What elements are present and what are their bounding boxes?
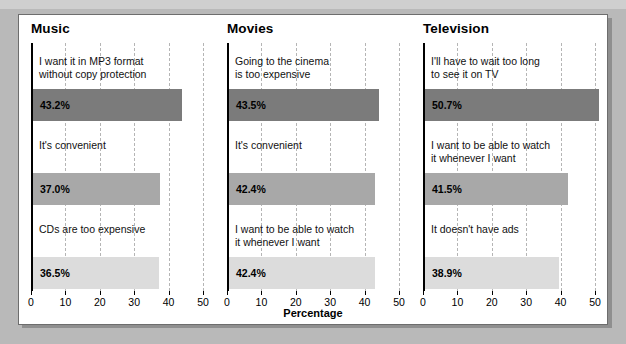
bar-value-label: 42.4%	[236, 183, 266, 195]
plot-area: I'll have to wait too long to see it on …	[423, 43, 595, 291]
gridline-10	[457, 43, 458, 291]
gridline-40	[365, 43, 366, 291]
bar: 43.2%	[33, 89, 182, 121]
panel-title: Movies	[227, 21, 273, 36]
tick-mark-20	[100, 291, 101, 295]
bar-value-label: 37.0%	[40, 183, 70, 195]
bar: 36.5%	[33, 257, 159, 289]
top-background-strip	[0, 0, 626, 9]
bar-label: It's convenient	[235, 139, 302, 152]
gridline-50	[399, 43, 400, 291]
bar-value-label: 41.5%	[432, 183, 462, 195]
bar: 38.9%	[425, 257, 559, 289]
chart-figure: MusicI want it in MP3 format without cop…	[18, 14, 608, 325]
bar-label: I'll have to wait too long to see it on …	[431, 55, 540, 80]
bar: 42.4%	[229, 257, 375, 289]
tick-mark-50	[203, 291, 204, 295]
tick-mark-20	[296, 291, 297, 295]
bar-value-label: 43.2%	[40, 99, 70, 111]
panel-title: Television	[423, 21, 489, 36]
tick-mark-50	[595, 291, 596, 295]
bar-value-label: 36.5%	[40, 267, 70, 279]
bar-value-label: 38.9%	[432, 267, 462, 279]
gridline-30	[526, 43, 527, 291]
bar: 37.0%	[33, 173, 160, 205]
tick-mark-10	[65, 291, 66, 295]
bar: 42.4%	[229, 173, 375, 205]
gridline-20	[492, 43, 493, 291]
tick-mark-10	[457, 291, 458, 295]
gridline-10	[65, 43, 66, 291]
bar: 50.7%	[425, 89, 599, 121]
gridline-30	[330, 43, 331, 291]
y-axis-line	[227, 43, 229, 291]
bar-label: I want it in MP3 format without copy pro…	[39, 55, 146, 80]
bar-value-label: 50.7%	[432, 99, 462, 111]
tick-mark-30	[134, 291, 135, 295]
panel-container: MusicI want it in MP3 format without cop…	[19, 15, 607, 324]
tick-mark-0	[227, 291, 228, 295]
tick-mark-0	[31, 291, 32, 295]
y-axis-line	[31, 43, 33, 291]
tick-mark-0	[423, 291, 424, 295]
bar: 41.5%	[425, 173, 568, 205]
tick-mark-10	[261, 291, 262, 295]
panel-movies: MoviesGoing to the cinema is too expensi…	[215, 15, 411, 324]
gridline-30	[134, 43, 135, 291]
gridline-10	[261, 43, 262, 291]
gridline-50	[203, 43, 204, 291]
tick-mark-30	[330, 291, 331, 295]
bar-label: I want to be able to watch it whenever I…	[431, 139, 550, 164]
tick-mark-40	[169, 291, 170, 295]
gridline-40	[561, 43, 562, 291]
bar-label: It doesn't have ads	[431, 223, 519, 236]
gridline-20	[296, 43, 297, 291]
tick-mark-40	[561, 291, 562, 295]
tick-mark-50	[399, 291, 400, 295]
bar-label: It's convenient	[39, 139, 106, 152]
plot-area: Going to the cinema is too expensive43.5…	[227, 43, 399, 291]
bar-label: Going to the cinema is too expensive	[235, 55, 329, 80]
gridline-20	[100, 43, 101, 291]
bar: 43.5%	[229, 89, 379, 121]
y-axis-line	[423, 43, 425, 291]
chart-screenshot: MusicI want it in MP3 format without cop…	[0, 0, 626, 344]
bar-value-label: 42.4%	[236, 267, 266, 279]
panel-title: Music	[31, 21, 70, 36]
plot-area: I want it in MP3 format without copy pro…	[31, 43, 203, 291]
panel-music: MusicI want it in MP3 format without cop…	[19, 15, 215, 324]
tick-mark-40	[365, 291, 366, 295]
x-axis-title: Percentage	[19, 307, 607, 319]
panel-television: TelevisionI'll have to wait too long to …	[411, 15, 607, 324]
gridline-40	[169, 43, 170, 291]
tick-mark-20	[492, 291, 493, 295]
bar-label: I want to be able to watch it whenever I…	[235, 223, 354, 248]
bar-label: CDs are too expensive	[39, 223, 145, 236]
bar-value-label: 43.5%	[236, 99, 266, 111]
gridline-50	[595, 43, 596, 291]
tick-mark-30	[526, 291, 527, 295]
